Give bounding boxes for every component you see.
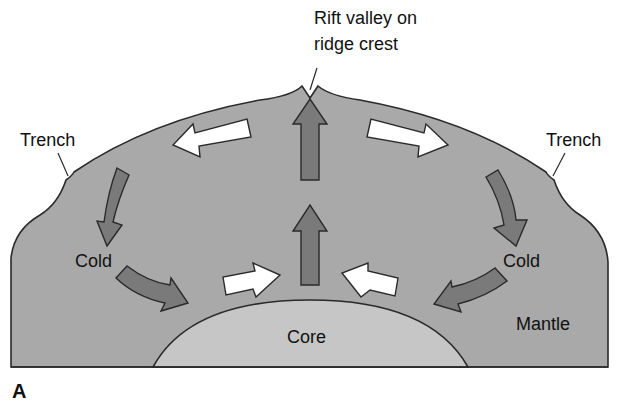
trench-right-label: Trench	[546, 130, 601, 150]
cold-right-label: Cold	[503, 251, 540, 271]
panel-label: A	[12, 380, 26, 402]
mantle-convection-diagram: Rift valley on ridge crest Trench Trench…	[0, 0, 619, 407]
trench-left-leader-line	[58, 153, 68, 176]
trench-left-label: Trench	[20, 130, 75, 150]
rift-label-line2: ridge crest	[314, 34, 398, 54]
mantle-label: Mantle	[516, 314, 570, 334]
rift-leader-line	[310, 68, 317, 90]
core-label: Core	[287, 327, 326, 347]
rift-label-line1: Rift valley on	[314, 8, 417, 28]
trench-right-leader-line	[553, 153, 565, 176]
cold-left-label: Cold	[75, 251, 112, 271]
